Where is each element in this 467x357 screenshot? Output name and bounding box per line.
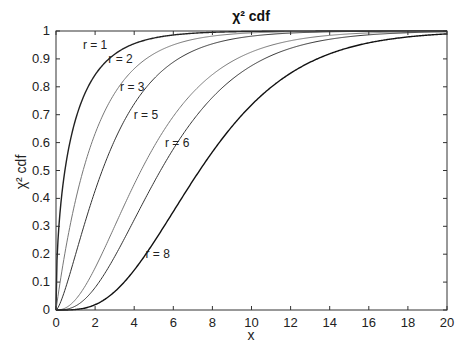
y-tick-label: 0.2	[32, 246, 50, 261]
y-axis-ticks: 00.10.20.30.40.50.60.70.80.91	[32, 23, 447, 317]
x-tick-label: 16	[362, 315, 376, 330]
x-tick-label: 4	[131, 315, 138, 330]
y-tick-label: 0.5	[32, 163, 50, 178]
plot-frame	[56, 31, 447, 310]
curve-r1	[56, 31, 447, 310]
chart-title: χ² cdf	[232, 8, 270, 24]
x-tick-label: 8	[209, 315, 216, 330]
y-tick-label: 1	[43, 23, 50, 38]
curve-r2	[56, 31, 447, 310]
x-tick-label: 18	[401, 315, 415, 330]
curve-label: r = 3	[120, 80, 145, 94]
x-tick-label: 20	[440, 315, 454, 330]
x-tick-label: 0	[52, 315, 59, 330]
curve-r3	[56, 31, 447, 310]
curve-label: r = 5	[134, 108, 159, 122]
y-tick-label: 0.7	[32, 107, 50, 122]
y-axis-label: χ² cdf	[13, 155, 29, 190]
curve-r8	[56, 34, 447, 310]
chi-square-cdf-chart: 02468101214161820 00.10.20.30.40.50.60.7…	[0, 0, 467, 357]
curve-label: r = 8	[145, 247, 170, 261]
x-axis-ticks: 02468101214161820	[52, 31, 454, 330]
curve-label: r = 2	[108, 52, 133, 66]
y-tick-label: 0	[43, 302, 50, 317]
y-tick-label: 0.8	[32, 79, 50, 94]
y-tick-label: 0.1	[32, 274, 50, 289]
x-tick-label: 14	[322, 315, 336, 330]
y-tick-label: 0.3	[32, 218, 50, 233]
y-tick-label: 0.9	[32, 51, 50, 66]
curve-r5	[56, 31, 447, 310]
y-tick-label: 0.6	[32, 135, 50, 150]
x-tick-label: 2	[91, 315, 98, 330]
curve-label: r = 1	[83, 38, 108, 52]
y-tick-label: 0.4	[32, 190, 50, 205]
x-tick-label: 12	[283, 315, 297, 330]
x-tick-label: 6	[170, 315, 177, 330]
curve-r6	[56, 32, 447, 310]
curve-annotations: r = 1r = 2r = 3r = 5r = 6r = 8	[83, 38, 190, 261]
x-axis-label: x	[248, 327, 255, 343]
curve-label: r = 6	[165, 136, 190, 150]
series-curves	[56, 31, 447, 310]
